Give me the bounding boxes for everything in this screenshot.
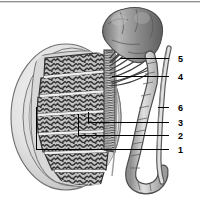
label-group: 5 4 6 3 2 1: [178, 54, 183, 155]
testis-body: [11, 44, 121, 190]
anatomy-diagram-svg: 5 4 6 3 2 1: [0, 0, 200, 220]
label-1: 1: [178, 145, 183, 155]
rete-testis: [104, 50, 115, 152]
label-2: 2: [178, 131, 183, 141]
label-4: 4: [178, 72, 183, 82]
top-border-rule: [0, 1, 200, 2]
top-border-rule-fade: [0, 2, 200, 3]
vas-deferens: [157, 48, 169, 182]
label-6: 6: [178, 103, 183, 113]
label-3: 3: [178, 118, 183, 128]
label-5: 5: [178, 54, 183, 64]
anatomy-figure: 5 4 6 3 2 1: [0, 0, 200, 220]
